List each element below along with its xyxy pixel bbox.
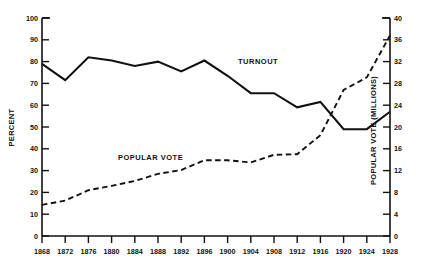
svg-text:70: 70 bbox=[30, 79, 38, 88]
election-turnout-popular-vote-chart: 0102030405060708090100 04812162024283236… bbox=[0, 0, 424, 266]
series-label-popular-vote: POPULAR VOTE bbox=[118, 153, 183, 162]
svg-text:40: 40 bbox=[394, 14, 402, 23]
svg-text:100: 100 bbox=[26, 14, 38, 23]
svg-text:1896: 1896 bbox=[196, 247, 212, 256]
chart-container: 0102030405060708090100 04812162024283236… bbox=[0, 0, 424, 266]
svg-text:60: 60 bbox=[30, 101, 38, 110]
svg-text:24: 24 bbox=[394, 101, 402, 110]
right-axis-ticks: 0481216202428323640 bbox=[383, 14, 402, 241]
x-axis-ticks: 1868187218761880188418881892189619001904… bbox=[34, 236, 398, 256]
svg-text:1920: 1920 bbox=[336, 247, 352, 256]
svg-text:12: 12 bbox=[394, 166, 402, 175]
svg-text:36: 36 bbox=[394, 35, 402, 44]
svg-text:90: 90 bbox=[30, 35, 38, 44]
svg-text:20: 20 bbox=[394, 123, 402, 132]
svg-text:1876: 1876 bbox=[80, 247, 96, 256]
svg-text:28: 28 bbox=[394, 79, 402, 88]
svg-text:1892: 1892 bbox=[173, 247, 189, 256]
svg-text:1888: 1888 bbox=[150, 247, 166, 256]
svg-text:1908: 1908 bbox=[266, 247, 282, 256]
svg-text:1872: 1872 bbox=[57, 247, 73, 256]
series-line-turnout bbox=[42, 57, 390, 129]
svg-text:8: 8 bbox=[394, 188, 398, 197]
svg-text:1912: 1912 bbox=[289, 247, 305, 256]
svg-text:20: 20 bbox=[30, 188, 38, 197]
svg-text:1916: 1916 bbox=[312, 247, 328, 256]
svg-text:16: 16 bbox=[394, 144, 402, 153]
svg-text:30: 30 bbox=[30, 166, 38, 175]
svg-text:0: 0 bbox=[34, 232, 38, 241]
right-axis-title: POPULAR VOTE (MILLIONS) bbox=[369, 56, 378, 206]
series-label-turnout: TURNOUT bbox=[238, 57, 278, 66]
svg-text:80: 80 bbox=[30, 57, 38, 66]
svg-text:1924: 1924 bbox=[359, 247, 375, 256]
svg-text:50: 50 bbox=[30, 123, 38, 132]
svg-text:1904: 1904 bbox=[243, 247, 259, 256]
svg-text:32: 32 bbox=[394, 57, 402, 66]
svg-text:0: 0 bbox=[394, 232, 398, 241]
svg-text:40: 40 bbox=[30, 144, 38, 153]
series-line-popular-vote bbox=[42, 35, 390, 205]
svg-text:4: 4 bbox=[394, 210, 398, 219]
svg-text:10: 10 bbox=[30, 210, 38, 219]
left-axis-ticks: 0102030405060708090100 bbox=[26, 14, 49, 241]
svg-text:1928: 1928 bbox=[382, 247, 398, 256]
plot-frame bbox=[42, 18, 390, 236]
svg-text:1900: 1900 bbox=[220, 247, 236, 256]
svg-text:1884: 1884 bbox=[127, 247, 143, 256]
svg-text:1880: 1880 bbox=[104, 247, 120, 256]
svg-text:1868: 1868 bbox=[34, 247, 50, 256]
left-axis-title: PERCENT bbox=[7, 98, 16, 158]
